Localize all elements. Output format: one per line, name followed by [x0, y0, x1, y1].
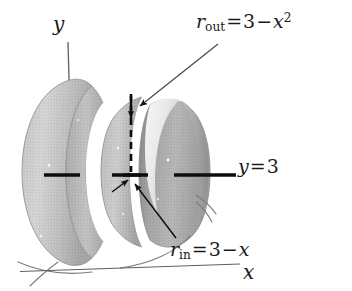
r-in-symbol: r: [170, 238, 179, 260]
r-out-exponent: 2: [284, 11, 292, 25]
label-x-axis: x: [243, 262, 254, 282]
axis-label-equals: =: [249, 155, 267, 177]
label-r-in: rin=3−x: [170, 240, 249, 261]
r-in-subscript: in: [179, 248, 191, 262]
paraboloid-body: [139, 99, 210, 247]
r-out-constant: 3: [243, 10, 255, 32]
r-out-symbol: r: [196, 10, 205, 32]
r-in-minus: −: [221, 238, 239, 260]
x-axis-line: [20, 264, 240, 272]
axis-label-variable: y: [238, 155, 249, 177]
r-in-variable: x: [239, 238, 250, 260]
r-out-variable: x: [273, 10, 284, 32]
r-out-minus: −: [255, 10, 273, 32]
r-out-equals: =: [225, 10, 243, 32]
label-y-axis: y: [53, 14, 64, 34]
r-in-equals: =: [191, 238, 209, 260]
label-r-out: rout=3−x2: [196, 12, 292, 33]
axis-label-value: 3: [267, 155, 279, 177]
r-in-constant: 3: [209, 238, 221, 260]
solid-of-revolution-figure: rout=3−x2 rin=3−x y=3 y x: [0, 0, 352, 291]
r-out-subscript: out: [205, 20, 225, 34]
label-axis-y-equals-3: y=3: [238, 157, 279, 176]
